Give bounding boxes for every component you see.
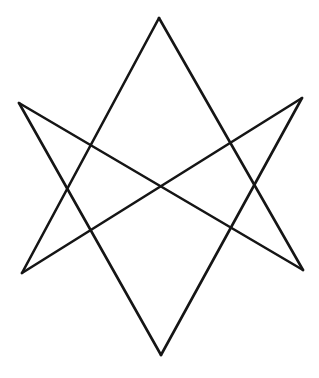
hexagram-figure [0, 0, 319, 378]
background [0, 0, 319, 378]
unicursal-hexagram-icon [0, 0, 319, 378]
